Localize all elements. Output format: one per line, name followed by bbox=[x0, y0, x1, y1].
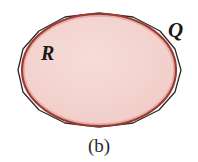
figure-container: R Q (b) bbox=[0, 0, 198, 162]
polygon-label-q: Q bbox=[168, 20, 183, 41]
figure-caption: (b) bbox=[0, 136, 198, 155]
region-label-r: R bbox=[41, 43, 54, 63]
